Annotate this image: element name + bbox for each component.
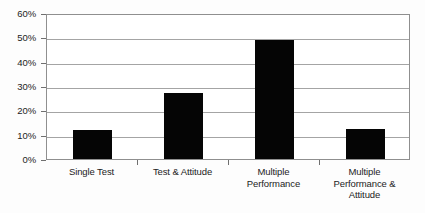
gridline-20%	[47, 112, 409, 113]
y-tick-label: 60%	[17, 9, 36, 19]
x-cat-label: MultiplePerformance &Attitude	[319, 166, 410, 201]
gridline-30%	[47, 88, 409, 89]
x-cat-label: MultiplePerformance	[228, 166, 319, 189]
x-axis-category-labels: Single TestTest & AttitudeMultiplePerfor…	[46, 166, 410, 212]
plot-area	[46, 14, 410, 160]
y-tick-label: 50%	[17, 33, 36, 43]
x-axis-tick-marks	[46, 160, 410, 165]
y-tick-label: 20%	[17, 106, 36, 116]
bar	[164, 93, 203, 159]
bar	[255, 40, 294, 159]
bar	[346, 129, 385, 159]
x-tick-mark	[319, 160, 320, 165]
x-cat-label: Test & Attitude	[137, 166, 228, 178]
gridline-50%	[47, 39, 409, 40]
x-cat-label-line: Attitude	[319, 189, 410, 201]
x-cat-label-line: Performance	[228, 178, 319, 190]
x-cat-label-line: Performance &	[319, 178, 410, 190]
y-tick-label: 30%	[17, 82, 36, 92]
x-tick-mark	[137, 160, 138, 165]
y-tick-label: 40%	[17, 58, 36, 68]
x-cat-label-line: Test & Attitude	[137, 166, 228, 178]
x-tick-mark	[228, 160, 229, 165]
y-tick-label: 10%	[17, 131, 36, 141]
x-cat-label-line: Multiple	[319, 166, 410, 178]
y-tick-label: 0%	[22, 155, 36, 165]
bar	[73, 130, 112, 159]
x-cat-label-line: Single Test	[46, 166, 137, 178]
gridline-40%	[47, 64, 409, 65]
bar-chart-figure: 0%10%20%30%40%50%60% Single TestTest & A…	[0, 0, 425, 213]
y-axis: 0%10%20%30%40%50%60%	[0, 14, 42, 160]
x-cat-label-line: Multiple	[228, 166, 319, 178]
x-cat-label: Single Test	[46, 166, 137, 178]
